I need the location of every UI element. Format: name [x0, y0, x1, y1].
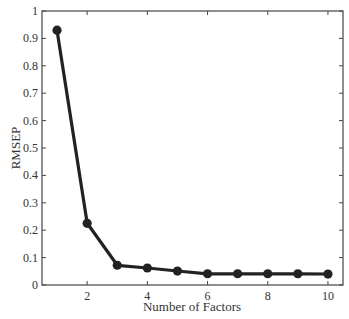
y-tick-label: 0.8	[23, 59, 38, 73]
y-tick-label: 0.1	[23, 251, 38, 265]
x-tick-label: 8	[265, 289, 271, 303]
y-tick-label: 0.5	[23, 141, 38, 155]
data-point-marker	[83, 219, 92, 228]
rmsep-series-markers	[52, 26, 332, 279]
data-point-marker	[173, 266, 182, 275]
y-tick-label: 0.9	[23, 31, 38, 45]
x-tick-label: 2	[84, 289, 90, 303]
x-axis-label: Number of Factors	[143, 299, 241, 314]
y-tick-label: 0	[32, 278, 38, 292]
data-point-marker	[52, 26, 61, 35]
data-point-marker	[323, 269, 332, 278]
y-tick-label: 0.4	[23, 168, 38, 182]
rmsep-line-chart: 00.10.20.30.40.50.60.70.80.91 246810 Num…	[0, 0, 349, 319]
y-tick-label: 0.6	[23, 114, 38, 128]
y-tick-label: 0.3	[23, 196, 38, 210]
data-point-marker	[113, 261, 122, 270]
y-tick-label: 0.2	[23, 223, 38, 237]
data-point-marker	[263, 269, 272, 278]
rmsep-series-line	[57, 30, 328, 274]
data-point-marker	[203, 269, 212, 278]
y-tick-label: 0.7	[23, 86, 38, 100]
y-axis-label: RMSEP	[8, 127, 23, 170]
x-axis-ticks: 246810	[84, 11, 334, 303]
data-point-marker	[233, 269, 242, 278]
y-tick-label: 1	[32, 4, 38, 18]
data-point-marker	[143, 263, 152, 272]
plot-frame	[42, 11, 343, 285]
data-point-marker	[293, 269, 302, 278]
x-tick-label: 10	[322, 289, 334, 303]
y-axis-ticks: 00.10.20.30.40.50.60.70.80.91	[23, 4, 343, 292]
